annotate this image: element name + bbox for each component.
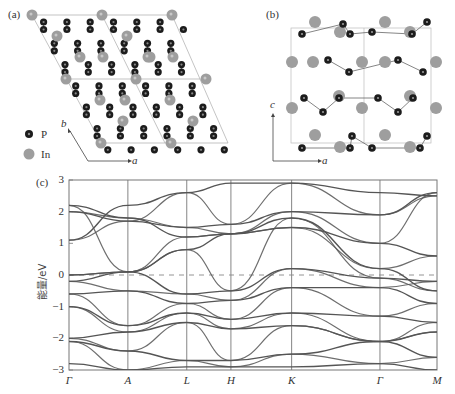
band-structure-plot <box>0 0 455 394</box>
